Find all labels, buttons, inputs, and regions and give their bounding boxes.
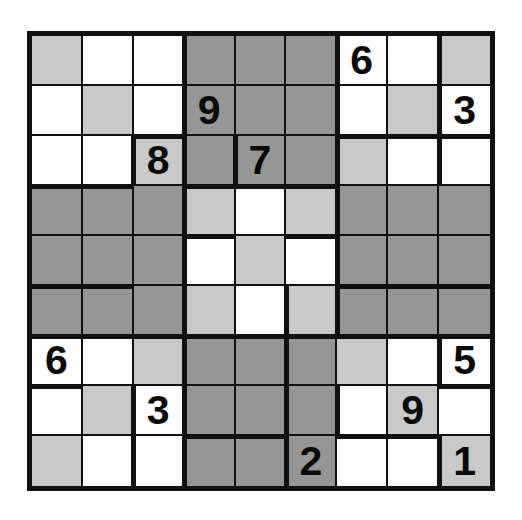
sudoku-given-digit: 9 <box>198 90 221 131</box>
sudoku-grid-frame: 69387653921 <box>27 31 495 491</box>
sudoku-cell[interactable] <box>286 336 337 386</box>
sudoku-cell[interactable] <box>185 336 236 386</box>
sudoku-cell[interactable] <box>134 336 185 386</box>
sudoku-given-digit: 8 <box>147 140 170 181</box>
sudoku-cell[interactable] <box>286 236 337 286</box>
sudoku-cell[interactable] <box>185 286 236 336</box>
sudoku-cell[interactable]: 5 <box>439 336 490 386</box>
sudoku-cell[interactable] <box>286 36 337 86</box>
sudoku-cell[interactable] <box>286 386 337 436</box>
sudoku-cell[interactable] <box>388 286 439 336</box>
sudoku-cell[interactable] <box>236 286 287 336</box>
sudoku-cell[interactable]: 8 <box>134 136 185 186</box>
sudoku-cell[interactable]: 9 <box>388 386 439 436</box>
sudoku-cell[interactable] <box>286 186 337 236</box>
sudoku-cell[interactable] <box>185 136 236 186</box>
sudoku-cell[interactable]: 1 <box>439 436 490 486</box>
sudoku-cell[interactable] <box>236 36 287 86</box>
sudoku-cell[interactable] <box>388 186 439 236</box>
sudoku-cell[interactable] <box>185 36 236 86</box>
sudoku-cell[interactable] <box>286 286 337 336</box>
sudoku-given-digit: 6 <box>350 40 373 81</box>
sudoku-cell[interactable] <box>83 186 134 236</box>
sudoku-cell[interactable] <box>185 386 236 436</box>
sudoku-cell[interactable] <box>83 136 134 186</box>
sudoku-cell[interactable] <box>388 436 439 486</box>
sudoku-cell[interactable]: 2 <box>286 436 337 486</box>
sudoku-cell[interactable] <box>337 86 388 136</box>
sudoku-cell[interactable] <box>83 36 134 86</box>
sudoku-cell[interactable] <box>83 86 134 136</box>
sudoku-cell[interactable] <box>439 136 490 186</box>
sudoku-cell[interactable] <box>439 236 490 286</box>
sudoku-given-digit: 2 <box>299 441 322 482</box>
sudoku-cell[interactable] <box>236 236 287 286</box>
sudoku-cell[interactable] <box>337 186 388 236</box>
sudoku-cell[interactable] <box>337 336 388 386</box>
sudoku-cell[interactable] <box>388 36 439 86</box>
sudoku-cell[interactable] <box>32 186 83 236</box>
sudoku-cell[interactable] <box>236 436 287 486</box>
sudoku-cell[interactable] <box>337 136 388 186</box>
sudoku-cell[interactable] <box>83 386 134 436</box>
sudoku-given-digit: 9 <box>401 390 424 431</box>
sudoku-cell[interactable] <box>134 286 185 336</box>
sudoku-given-digit: 3 <box>453 90 476 131</box>
sudoku-cell[interactable] <box>134 36 185 86</box>
sudoku-cell[interactable] <box>185 186 236 236</box>
sudoku-cell[interactable] <box>439 286 490 336</box>
sudoku-cell[interactable] <box>32 436 83 486</box>
sudoku-cell[interactable] <box>83 336 134 386</box>
sudoku-cell[interactable] <box>134 186 185 236</box>
sudoku-cell[interactable] <box>337 436 388 486</box>
sudoku-cell[interactable] <box>388 236 439 286</box>
sudoku-cell[interactable] <box>134 236 185 286</box>
sudoku-given-digit: 7 <box>249 140 272 181</box>
sudoku-cell[interactable] <box>337 236 388 286</box>
sudoku-cell[interactable] <box>439 386 490 436</box>
sudoku-cell[interactable] <box>185 436 236 486</box>
sudoku-cell[interactable] <box>337 286 388 336</box>
sudoku-cell[interactable]: 3 <box>134 386 185 436</box>
sudoku-cell[interactable] <box>286 136 337 186</box>
sudoku-cell[interactable] <box>32 236 83 286</box>
sudoku-given-digit: 1 <box>453 441 476 482</box>
sudoku-cell[interactable]: 3 <box>439 86 490 136</box>
sudoku-cell[interactable] <box>32 136 83 186</box>
sudoku-puzzle-root: 69387653921 <box>0 0 522 520</box>
sudoku-cell[interactable] <box>236 386 287 436</box>
sudoku-cell[interactable] <box>32 386 83 436</box>
sudoku-cell[interactable] <box>83 436 134 486</box>
sudoku-cell[interactable] <box>236 336 287 386</box>
sudoku-cell[interactable] <box>388 136 439 186</box>
sudoku-cell[interactable] <box>32 36 83 86</box>
sudoku-cell[interactable] <box>236 86 287 136</box>
sudoku-cell[interactable] <box>439 186 490 236</box>
sudoku-given-digit: 5 <box>453 340 476 381</box>
sudoku-cell[interactable]: 9 <box>185 86 236 136</box>
sudoku-cell[interactable] <box>236 186 287 236</box>
sudoku-cell[interactable] <box>83 286 134 336</box>
sudoku-cell[interactable] <box>134 436 185 486</box>
sudoku-cell[interactable] <box>337 386 388 436</box>
sudoku-cell[interactable] <box>83 236 134 286</box>
sudoku-cell[interactable] <box>134 86 185 136</box>
sudoku-cell[interactable]: 6 <box>32 336 83 386</box>
sudoku-cell[interactable] <box>32 286 83 336</box>
sudoku-cell[interactable] <box>388 336 439 386</box>
sudoku-cell[interactable]: 7 <box>236 136 287 186</box>
sudoku-cell[interactable] <box>32 86 83 136</box>
sudoku-given-digit: 6 <box>45 340 68 381</box>
sudoku-given-digit: 3 <box>147 390 170 431</box>
sudoku-grid[interactable]: 69387653921 <box>32 36 490 486</box>
sudoku-cell[interactable] <box>185 236 236 286</box>
sudoku-cell[interactable] <box>286 86 337 136</box>
sudoku-cell[interactable] <box>439 36 490 86</box>
sudoku-cell[interactable] <box>388 86 439 136</box>
sudoku-cell[interactable]: 6 <box>337 36 388 86</box>
